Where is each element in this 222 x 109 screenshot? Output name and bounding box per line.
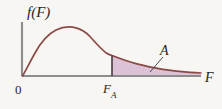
y-axis-label: f(F) — [27, 5, 50, 20]
x-axis-label: F — [205, 71, 214, 85]
x-tick-subscript: A — [111, 90, 117, 100]
area-region-label: A — [160, 44, 169, 58]
origin-label: 0 — [15, 83, 22, 96]
f-distribution-figure: f(F) 0 FA F A — [0, 0, 222, 109]
x-tick-label-fa: FA — [103, 82, 116, 99]
x-tick-base: F — [103, 81, 111, 96]
